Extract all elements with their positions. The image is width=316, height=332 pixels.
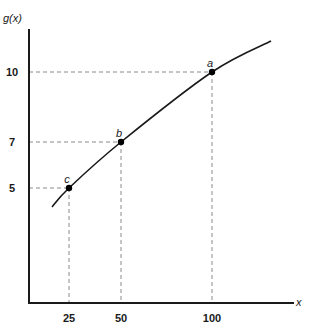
point-c-label: c [64,173,70,185]
point-c-marker [66,185,72,191]
x-axis-title: x [295,296,302,308]
x-tick-label: 50 [115,312,127,324]
point-b-label: b [116,127,122,139]
point-b-marker [118,139,124,145]
x-tick-label: 100 [203,312,221,324]
chart-figure: g(x) x 25501005710 cba [0,0,316,332]
dashed-guide-lines [29,72,212,303]
x-tick-label: 25 [63,312,75,324]
g-curve [52,41,271,207]
tick-labels: 25501005710 [6,66,221,324]
y-tick-label: 7 [9,136,15,148]
y-tick-label: 5 [9,182,15,194]
y-tick-label: 10 [6,66,18,78]
point-a-marker [209,69,215,75]
point-a-label: a [207,57,213,69]
axes: g(x) x [3,12,302,308]
y-axis-title: g(x) [3,12,22,24]
chart-svg: g(x) x 25501005710 cba [0,0,316,332]
